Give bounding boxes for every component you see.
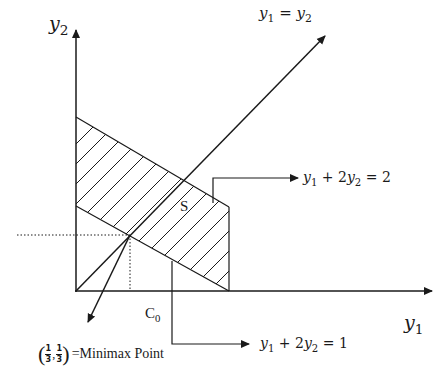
minimax-pointer-arrow [88,235,130,322]
minimax-x-fraction: 13 [45,345,51,364]
y1-axis-label: y1 [404,313,423,332]
upper-constraint-line [76,117,229,207]
y2-axis-label: y2 [49,14,68,33]
upper-constraint-label: y1 + 2y2 = 2 [303,170,391,184]
lower-constraint-label: y1 + 2y2 = 1 [260,336,348,350]
diagonal-line [76,36,325,291]
lower-constraint-line [76,206,229,291]
diagonal-label: y1 = y2 [259,6,312,21]
upper-constraint-callout [213,178,298,203]
lower-constraint-callout [172,261,249,344]
diagram-canvas [0,0,446,385]
c0-label: C0 [145,306,160,321]
region-s-label: S [180,199,188,214]
minimax-point-label: ( 13 , 13 ) =Minimax Point [38,343,164,365]
